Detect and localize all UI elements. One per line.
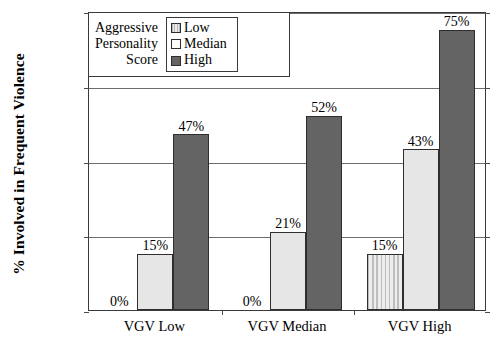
axis-tick-mark bbox=[485, 312, 490, 313]
bar-value-label: 21% bbox=[275, 217, 301, 232]
axis-tick-mark bbox=[84, 88, 89, 89]
x-axis-category-label: VGV High bbox=[388, 318, 452, 335]
legend-caption-line: Score bbox=[95, 52, 158, 68]
bar: 43% bbox=[403, 149, 439, 310]
axis-tick-mark bbox=[485, 13, 490, 14]
legend-entry: Low bbox=[171, 20, 227, 36]
bar: 15% bbox=[367, 254, 403, 310]
legend-label: High bbox=[184, 52, 212, 68]
bar-value-label: 52% bbox=[311, 101, 337, 116]
bar-value-label: 75% bbox=[444, 15, 470, 30]
axis-tick-mark bbox=[84, 237, 89, 238]
axis-tick-mark bbox=[84, 312, 89, 313]
legend-swatch bbox=[171, 39, 181, 49]
legend-label: Median bbox=[184, 36, 227, 52]
bar: 52% bbox=[306, 116, 342, 310]
bar-value-label: 0% bbox=[243, 295, 262, 310]
bar-chart: % Involved in Frequent Violence 0%20%40%… bbox=[0, 0, 497, 347]
legend-swatch bbox=[171, 23, 181, 33]
x-axis-category-label: VGV Median bbox=[247, 318, 326, 335]
gridline bbox=[89, 88, 485, 89]
legend: AggressivePersonalityScore LowMedianHigh bbox=[88, 12, 290, 77]
bar: 21% bbox=[270, 232, 306, 310]
bar: 47% bbox=[173, 134, 209, 310]
plot-area: 0%15%47%0%21%52%15%43%75% AggressivePers… bbox=[88, 12, 486, 311]
axis-tick-mark bbox=[485, 237, 490, 238]
bar-value-label: 15% bbox=[372, 239, 398, 254]
legend-caption: AggressivePersonalityScore bbox=[95, 20, 166, 68]
legend-label: Low bbox=[184, 20, 210, 36]
legend-entries: LowMedianHigh bbox=[166, 17, 238, 72]
bar-value-label: 43% bbox=[408, 135, 434, 150]
bar-value-label: 47% bbox=[178, 120, 204, 135]
legend-caption-line: Aggressive bbox=[95, 20, 158, 36]
x-axis-separator-tick bbox=[354, 310, 355, 315]
legend-entry: High bbox=[171, 52, 227, 68]
legend-caption-line: Personality bbox=[95, 36, 158, 52]
bar-value-label: 0% bbox=[110, 295, 129, 310]
x-axis-category-label: VGV Low bbox=[124, 318, 185, 335]
bar-value-label: 15% bbox=[142, 239, 168, 254]
axis-tick-mark bbox=[84, 163, 89, 164]
legend-entry: Median bbox=[171, 36, 227, 52]
axis-tick-mark bbox=[485, 88, 490, 89]
legend-swatch bbox=[171, 56, 181, 66]
bar: 15% bbox=[137, 254, 173, 310]
y-axis-title: % Involved in Frequent Violence bbox=[10, 14, 28, 314]
x-axis-separator-tick bbox=[222, 310, 223, 315]
bar: 75% bbox=[439, 30, 475, 310]
axis-tick-mark bbox=[485, 163, 490, 164]
